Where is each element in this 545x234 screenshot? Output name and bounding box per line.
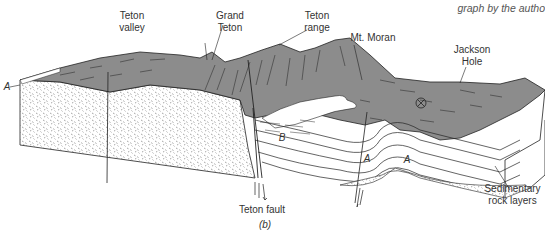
label-line: Teton [297, 10, 337, 22]
teton-block-diagram [0, 0, 545, 234]
label-grand-teton: Grand Teton [210, 10, 250, 34]
teton-fault [253, 108, 258, 178]
label-teton-fault: Teton fault [227, 204, 297, 216]
label-line: Grand [210, 10, 250, 22]
label-layer-b: B [277, 132, 287, 144]
label-layer-a-mid1: A [362, 153, 372, 165]
label-line: valley [112, 22, 152, 34]
label-teton-range: Teton range [297, 10, 337, 34]
label-layer-a-mid2: A [402, 154, 412, 166]
label-teton-valley: Teton valley [112, 10, 152, 34]
label-line: rock layers [480, 195, 545, 207]
label-mt-moran: Mt. Moran [343, 32, 403, 44]
label-line: range [297, 22, 337, 34]
label-line: Jackson [447, 44, 497, 56]
label-line: Teton [112, 10, 152, 22]
label-sedimentary: Sedimentary rock layers [480, 183, 545, 207]
label-line: Teton [210, 22, 250, 34]
label-layer-a-left: A [2, 81, 12, 93]
figure-label: (b) [255, 219, 275, 231]
label-line: Hole [447, 56, 497, 68]
fault-arrows-teton [255, 182, 267, 200]
label-line: Sedimentary [480, 183, 545, 195]
caption-text: graph by the autho [457, 2, 545, 14]
label-jackson-hole: Jackson Hole [447, 44, 497, 68]
fault-arrows-jackson [357, 188, 363, 207]
